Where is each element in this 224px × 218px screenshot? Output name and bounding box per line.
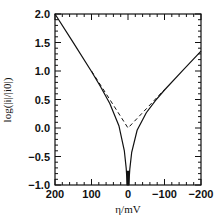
x-tick-label: 100 — [82, 188, 100, 200]
y-tick-label: 0.0 — [35, 122, 50, 134]
zero-spike — [127, 171, 130, 185]
plot-axes: 2.01.51.00.50.0−0.5−1.02001000−100−200 — [28, 8, 213, 200]
x-tick-label: −100 — [152, 188, 177, 200]
x-tick-label: 0 — [125, 188, 131, 200]
data-series — [55, 14, 201, 185]
y-tick-label: 2.0 — [35, 8, 50, 20]
solid-current-curve — [55, 14, 201, 185]
x-tick-label: 200 — [46, 188, 64, 200]
dashed-asymptote-line — [92, 71, 165, 128]
y-axis-label: log(|i|/|i0|) — [1, 77, 14, 122]
y-tick-label: 0.5 — [35, 94, 50, 106]
y-tick-label: −0.5 — [28, 151, 50, 163]
x-axis-label: η/mV — [115, 203, 140, 215]
tafel-plot: 2.01.51.00.50.0−0.5−1.02001000−100−200 η… — [0, 0, 224, 218]
plot-frame — [55, 14, 201, 185]
y-tick-label: 1.5 — [35, 37, 50, 49]
y-tick-label: 1.0 — [35, 65, 50, 77]
x-tick-label: −200 — [189, 188, 214, 200]
